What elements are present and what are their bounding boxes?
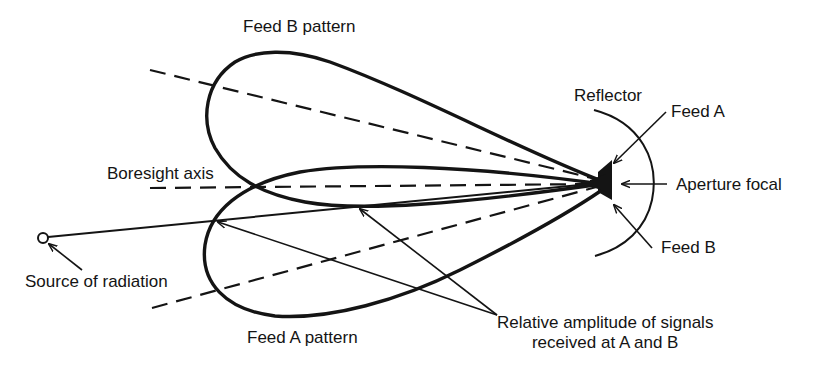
incoming-ray — [48, 183, 600, 237]
feed-a-leader-arrow — [614, 112, 666, 163]
feed-b-pattern-label: Feed B pattern — [243, 17, 355, 37]
boresight-axis-line — [150, 184, 600, 188]
relative-amplitude-line1: Relative amplitude of signals — [497, 313, 713, 333]
relative-amplitude-label: Relative amplitude of signals received a… — [497, 313, 713, 352]
feed-b-leader-arrow — [614, 205, 652, 248]
source-of-radiation-label: Source of radiation — [25, 272, 168, 292]
source-leader-arrow — [49, 244, 82, 270]
boresight-axis-label: Boresight axis — [107, 164, 214, 184]
source-point-icon — [38, 233, 48, 243]
reflector-label: Reflector — [574, 86, 642, 106]
feed-b-label: Feed B — [661, 238, 716, 258]
feed-a-pattern-label: Feed A pattern — [247, 328, 358, 348]
relative-amplitude-line2: received at A and B — [497, 333, 713, 353]
feed-a-label: Feed A — [671, 102, 725, 122]
aperture-focal-label: Aperture focal — [676, 175, 782, 195]
amplitude-a-leader-arrow — [218, 222, 497, 315]
feed-b-axis-line — [150, 70, 600, 180]
